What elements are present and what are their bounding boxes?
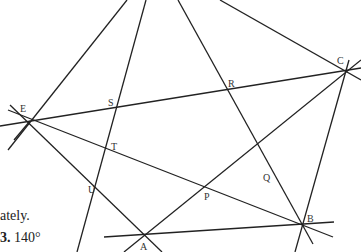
label-A: A	[140, 241, 148, 252]
pentagram-diagram: E C B A S R Q P T U	[0, 0, 361, 252]
line-e-top	[8, 0, 127, 150]
line-top-c	[220, 0, 361, 80]
label-U: U	[88, 184, 96, 195]
label-Q: Q	[263, 172, 271, 183]
label-E: E	[20, 103, 26, 114]
label-P: P	[204, 191, 210, 202]
line-e-t-p-b	[8, 110, 333, 237]
text-fragment-ately: ately.	[0, 208, 30, 224]
label-T: T	[111, 141, 117, 152]
label-B: B	[307, 213, 314, 224]
answer-value: 140°	[14, 230, 41, 245]
label-R: R	[228, 78, 235, 89]
label-C: C	[337, 55, 344, 66]
line-e-s-r-c	[0, 68, 361, 126]
answer-number: 3.	[0, 230, 11, 245]
text-fragment-answer: 3. 140°	[0, 230, 41, 246]
label-S: S	[108, 97, 114, 108]
line-top-r-q-b	[178, 0, 313, 244]
line-top-s-t-u	[77, 0, 146, 252]
